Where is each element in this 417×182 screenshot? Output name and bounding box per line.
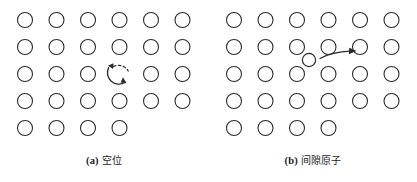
lattice-atom	[112, 40, 127, 55]
lattice-atom	[81, 40, 96, 55]
lattice-atom	[258, 94, 273, 109]
lattice-atom	[175, 67, 190, 82]
point-defect-figure: (a) 空位	[0, 0, 417, 182]
lattice-diagram-a	[0, 0, 208, 150]
lattice-atom	[353, 40, 368, 55]
lattice-atom	[290, 94, 305, 109]
lattice-atom	[18, 67, 33, 82]
interstitial-motion-arrow	[320, 48, 357, 59]
panel-interstitial: (b) 间隙原子	[209, 0, 417, 182]
lattice-atom	[112, 121, 127, 136]
lattice-diagram-b	[209, 0, 417, 150]
lattice-atom	[321, 13, 336, 28]
caption-tag-b: (b)	[284, 155, 300, 166]
lattice-atom	[384, 67, 399, 82]
lattice-atom	[227, 67, 242, 82]
lattice-atom	[144, 40, 159, 55]
lattice-atom	[81, 13, 96, 28]
panel-vacancy: (a) 空位	[0, 0, 208, 182]
lattice-atom	[258, 121, 273, 136]
lattice-svg-b	[209, 0, 417, 150]
lattice-atom	[353, 13, 368, 28]
lattice-atom	[175, 40, 190, 55]
lattice-atom	[227, 94, 242, 109]
lattice-atom-group-b	[227, 13, 400, 136]
caption-text-a: 空位	[102, 155, 122, 166]
lattice-atom	[81, 67, 96, 82]
lattice-atom	[321, 40, 336, 55]
lattice-atom	[321, 67, 336, 82]
lattice-atom-group-a	[18, 13, 191, 136]
lattice-atom	[144, 67, 159, 82]
lattice-atom	[227, 121, 242, 136]
lattice-atom	[384, 40, 399, 55]
lattice-atom	[384, 94, 399, 109]
lattice-atom	[112, 13, 127, 28]
lattice-atom	[321, 94, 336, 109]
lattice-atom	[18, 13, 33, 28]
lattice-atom	[144, 13, 159, 28]
lattice-atom	[18, 40, 33, 55]
lattice-atom	[258, 67, 273, 82]
lattice-atom	[258, 40, 273, 55]
interstitial-atom	[302, 53, 315, 66]
lattice-atom	[81, 121, 96, 136]
lattice-atom	[258, 13, 273, 28]
lattice-atom	[227, 40, 242, 55]
lattice-atom	[112, 94, 127, 109]
lattice-atom	[384, 13, 399, 28]
vacancy-dashed-arc	[114, 65, 129, 71]
caption-panel-b: (b) 间隙原子	[209, 152, 417, 167]
lattice-atom	[290, 13, 305, 28]
caption-text-b: 间隙原子	[301, 155, 342, 166]
lattice-svg-a	[0, 0, 208, 150]
lattice-atom	[321, 121, 336, 136]
vacancy-arrow-lower-head	[121, 77, 127, 83]
lattice-atom	[353, 67, 368, 82]
lattice-atom	[49, 40, 64, 55]
vacancy-marker	[107, 63, 128, 84]
lattice-atom	[18, 121, 33, 136]
caption-panel-a: (a) 空位	[0, 152, 208, 167]
lattice-atom	[49, 13, 64, 28]
lattice-atom	[290, 121, 305, 136]
lattice-atom	[49, 67, 64, 82]
lattice-atom	[227, 13, 242, 28]
lattice-atom	[18, 94, 33, 109]
motion-arrow-shaft	[320, 51, 351, 58]
lattice-atom	[49, 121, 64, 136]
lattice-atom	[290, 40, 305, 55]
lattice-atom	[290, 67, 305, 82]
lattice-atom	[144, 94, 159, 109]
lattice-atom	[49, 94, 64, 109]
lattice-atom	[81, 94, 96, 109]
caption-tag-a: (a)	[86, 155, 102, 166]
lattice-atom	[175, 13, 190, 28]
lattice-atom	[353, 94, 368, 109]
lattice-atom	[175, 94, 190, 109]
